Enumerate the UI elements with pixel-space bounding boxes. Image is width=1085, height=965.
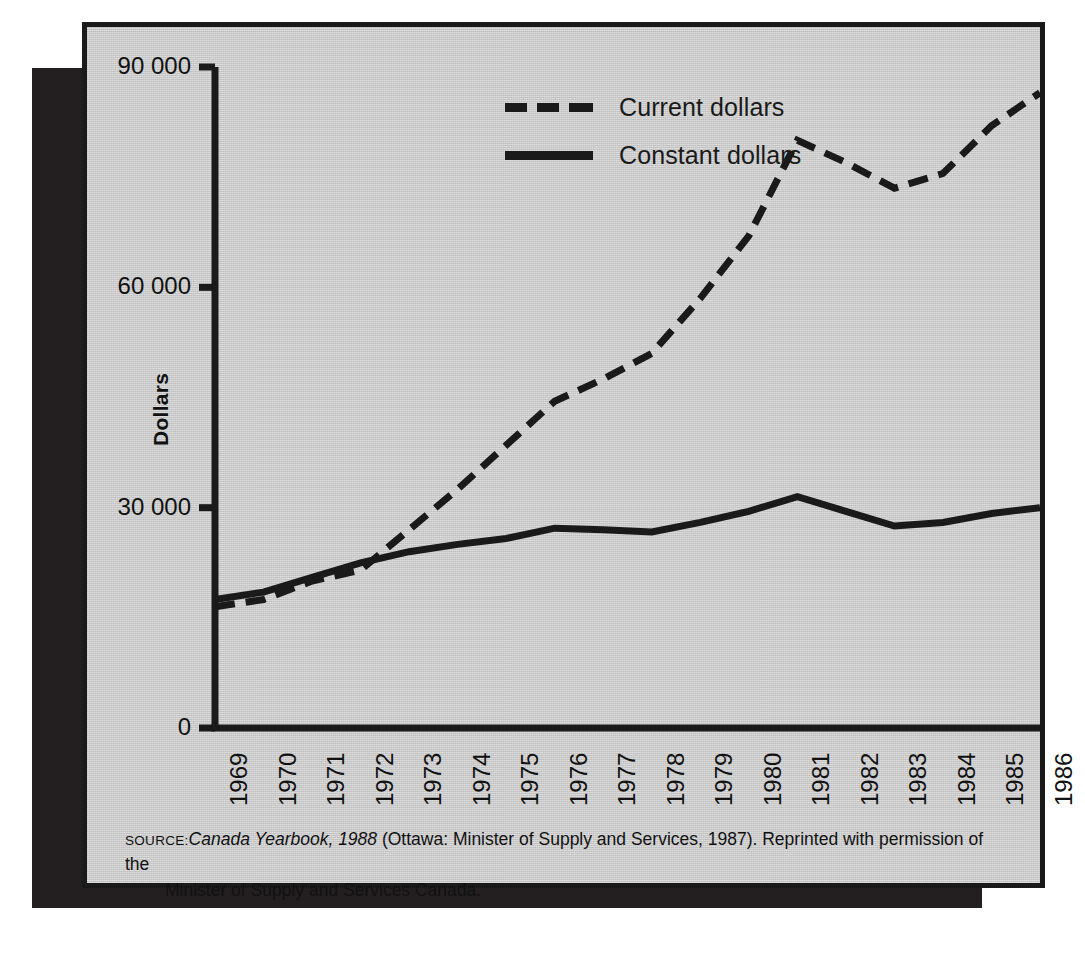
x-tick-label: 1970 [274, 753, 302, 806]
y-tick-label: 0 [178, 713, 191, 741]
source-title: Canada Yearbook, 1988 [189, 829, 377, 849]
x-tick-label: 1979 [710, 753, 738, 806]
dashed-line-swatch-icon [505, 103, 593, 112]
figure-root: Current dollars Constant dollars Dollars… [0, 0, 1085, 965]
x-tick-label: 1986 [1050, 753, 1078, 806]
x-tick-label: 1982 [856, 753, 884, 806]
x-tick-label: 1972 [371, 753, 399, 806]
source-note: SOURCE:Canada Yearbook, 1988 (Ottawa: Mi… [125, 827, 1005, 903]
x-tick-label: 1981 [807, 753, 835, 806]
legend-label-constant-dollars: Constant dollars [619, 141, 801, 170]
legend-item-current-dollars: Current dollars [505, 83, 801, 131]
legend-item-constant-dollars: Constant dollars [505, 131, 801, 179]
chart-panel: Current dollars Constant dollars Dollars… [82, 22, 1045, 888]
y-tick-label: 90 000 [118, 52, 191, 80]
x-tick-label: 1985 [1001, 753, 1029, 806]
x-tick-label: 1975 [516, 753, 544, 806]
x-tick-label: 1971 [322, 753, 350, 806]
x-tick-label: 1973 [419, 753, 447, 806]
x-tick-label: 1969 [225, 753, 253, 806]
y-tick-label: 60 000 [118, 272, 191, 300]
x-tick-label: 1983 [904, 753, 932, 806]
source-line-2: Minister of Supply and Services Canada. [125, 878, 1005, 903]
y-tick-label: 30 000 [118, 493, 191, 521]
x-tick-label: 1977 [613, 753, 641, 806]
x-tick-label: 1980 [759, 753, 787, 806]
y-axis-title: Dollars [149, 373, 173, 446]
legend-label-current-dollars: Current dollars [619, 93, 784, 122]
series-line-constant-dollars [215, 497, 1040, 600]
chart-legend: Current dollars Constant dollars [505, 83, 801, 179]
source-label: SOURCE: [125, 833, 189, 848]
x-tick-label: 1976 [565, 753, 593, 806]
x-tick-label: 1984 [953, 753, 981, 806]
x-tick-label: 1978 [662, 753, 690, 806]
x-tick-label: 1974 [468, 753, 496, 806]
solid-line-swatch-icon [505, 151, 593, 160]
